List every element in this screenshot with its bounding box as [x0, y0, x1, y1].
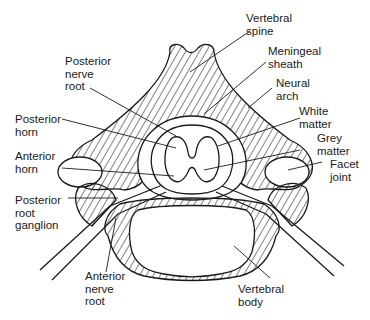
- label-meningeal-sheath: Meningeal sheath: [268, 45, 321, 70]
- label-white-matter: White matter: [299, 105, 332, 130]
- label-vertebral-spine: Vertebral spine: [246, 12, 292, 37]
- left-facet-joint: [58, 157, 102, 187]
- label-posterior-nerve-root: Posterior nerve root: [65, 55, 111, 93]
- label-anterior-horn: Anterior horn: [15, 150, 55, 175]
- right-facet-joint: [265, 157, 309, 187]
- label-posterior-root-ganglion: Posterior root ganglion: [15, 194, 61, 232]
- label-posterior-horn: Posterior horn: [15, 113, 61, 138]
- label-neural-arch: Neural arch: [276, 77, 310, 102]
- label-grey-matter: Grey matter: [317, 132, 350, 157]
- label-vertebral-body: Vertebral body: [238, 283, 284, 308]
- label-facet-joint: Facet joint: [330, 158, 359, 183]
- label-anterior-nerve-root: Anterior nerve root: [85, 270, 125, 308]
- vertebral-body: [130, 206, 255, 278]
